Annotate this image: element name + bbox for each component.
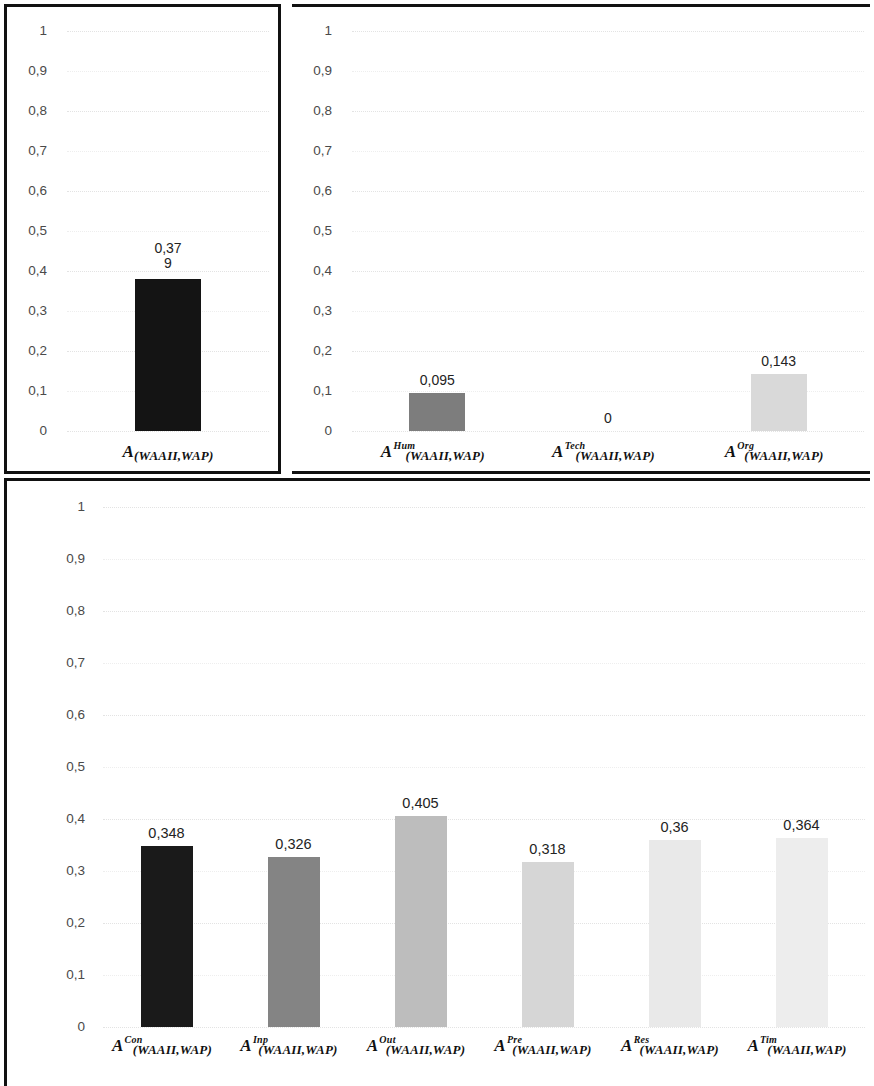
bar-value-label: 0 — [553, 411, 663, 425]
gridline — [67, 111, 269, 112]
gridline — [103, 507, 865, 508]
category-subscript: (WAAII,WAP) — [405, 448, 484, 463]
category-subscript: (WAAII,WAP) — [258, 1042, 337, 1057]
y-axis-tick-label: 0,9 — [7, 64, 47, 78]
category-symbol: A — [112, 1036, 124, 1055]
category-subscript: (WAAII,WAP) — [512, 1042, 591, 1057]
gridline — [103, 715, 865, 716]
bar-value-label: 0,37 9 — [113, 241, 223, 270]
bar-value-label: 0,326 — [239, 837, 349, 852]
gridline — [103, 611, 865, 612]
bar — [649, 840, 701, 1027]
x-axis-category-label: AOrg(WAAII,WAP) — [699, 443, 859, 460]
y-axis-tick-label: 0,4 — [292, 264, 332, 278]
y-axis-tick-label: 0,1 — [7, 384, 47, 398]
plot-area-aspects: 10,90,80,70,60,50,40,30,20,10 0,3480,326… — [7, 481, 870, 1086]
y-axis-tick-label: 0,1 — [292, 384, 332, 398]
gridline — [352, 111, 864, 112]
y-axis-tick-label: 0,5 — [292, 224, 332, 238]
x-axis-category-label: AHum(WAAII,WAP) — [357, 443, 517, 460]
category-subscript: (WAAII,WAP) — [767, 1042, 846, 1057]
y-axis-tick-label: 0,4 — [7, 264, 47, 278]
gridline — [352, 191, 864, 192]
category-symbol: A — [747, 1036, 759, 1055]
y-axis-tick-label: 0,5 — [7, 760, 85, 774]
bar-value-label: 0,318 — [493, 842, 603, 857]
chart-panel-aspects: 10,90,80,70,60,50,40,30,20,10 0,3480,326… — [4, 478, 870, 1086]
gridline — [352, 231, 864, 232]
gridline — [352, 431, 864, 432]
bar-value-label: 0,095 — [382, 373, 492, 387]
bar-value-label: 0,405 — [366, 796, 476, 811]
category-subscript: (WAAII,WAP) — [133, 1042, 212, 1057]
category-symbol: A — [123, 442, 135, 461]
bar — [395, 816, 447, 1027]
gridline — [67, 231, 269, 232]
y-axis-tick-label: 0,9 — [7, 552, 85, 566]
y-axis-tick-label: 0,3 — [292, 304, 332, 318]
bar — [409, 393, 465, 431]
gridline — [67, 431, 269, 432]
gridline — [67, 271, 269, 272]
y-axis-tick-label: 0,2 — [7, 344, 47, 358]
category-subscript: (WAAII,WAP) — [386, 1042, 465, 1057]
bar-value-label: 0,143 — [724, 354, 834, 368]
y-axis-tick-label: 0,3 — [7, 304, 47, 318]
y-axis-tick-label: 0,8 — [292, 104, 332, 118]
gridline — [67, 71, 269, 72]
bar-value-label: 0,36 — [620, 820, 730, 835]
category-symbol: A — [725, 442, 737, 461]
gridline — [103, 871, 865, 872]
gridline — [352, 71, 864, 72]
category-subscript: (WAAII,WAP) — [576, 448, 655, 463]
category-subscript: (WAAII,WAP) — [134, 448, 213, 463]
y-axis-tick-label: 0,7 — [7, 656, 85, 670]
category-symbol: A — [494, 1036, 506, 1055]
plot-area-overall: 10,90,80,70,60,50,40,30,20,10 0,37 9 A(W… — [7, 7, 278, 471]
gridline — [67, 151, 269, 152]
gridline — [103, 1027, 865, 1028]
category-symbol: A — [621, 1036, 633, 1055]
y-axis-tick-label: 0,2 — [7, 916, 85, 930]
gridline — [103, 975, 865, 976]
y-axis-tick-label: 0,2 — [292, 344, 332, 358]
bar-value-label: 0,348 — [112, 826, 222, 841]
gridline — [67, 191, 269, 192]
gridline — [352, 271, 864, 272]
gridline — [103, 559, 865, 560]
gridline — [352, 151, 864, 152]
y-axis-tick-label: 0,5 — [7, 224, 47, 238]
y-axis-tick-label: 0,8 — [7, 604, 85, 618]
category-symbol: A — [240, 1036, 252, 1055]
y-axis-tick-label: 0,6 — [7, 708, 85, 722]
category-symbol: A — [381, 442, 393, 461]
x-axis-category-label: ATim(WAAII,WAP) — [722, 1037, 874, 1054]
bar — [141, 846, 193, 1027]
plot-area-dimensions: 10,90,80,70,60,50,40,30,20,10 0,09500,14… — [292, 7, 870, 471]
y-axis-tick-label: 0,8 — [7, 104, 47, 118]
bar — [776, 838, 828, 1027]
y-axis-tick-label: 0,6 — [292, 184, 332, 198]
y-axis-tick-label: 0,6 — [7, 184, 47, 198]
gridline — [103, 923, 865, 924]
bar — [751, 374, 807, 431]
y-axis-tick-label: 0 — [292, 424, 332, 438]
gridline — [352, 311, 864, 312]
gridline — [352, 31, 864, 32]
y-axis-tick-label: 0,7 — [7, 144, 47, 158]
y-axis-tick-label: 0 — [7, 424, 47, 438]
bar-value-label: 0,364 — [747, 818, 857, 833]
bar — [268, 857, 320, 1027]
chart-panel-dimensions: 10,90,80,70,60,50,40,30,20,10 0,09500,14… — [292, 4, 870, 474]
bar — [522, 862, 574, 1027]
gridline — [67, 31, 269, 32]
bar — [135, 279, 201, 431]
x-axis-category-label: A(WAAII,WAP) — [88, 443, 248, 460]
gridline — [103, 767, 865, 768]
y-axis-tick-label: 1 — [292, 24, 332, 38]
category-subscript: (WAAII,WAP) — [640, 1042, 719, 1057]
category-symbol: A — [367, 1036, 379, 1055]
chart-panel-overall: 10,90,80,70,60,50,40,30,20,10 0,37 9 A(W… — [4, 4, 281, 474]
y-axis-tick-label: 1 — [7, 500, 85, 514]
